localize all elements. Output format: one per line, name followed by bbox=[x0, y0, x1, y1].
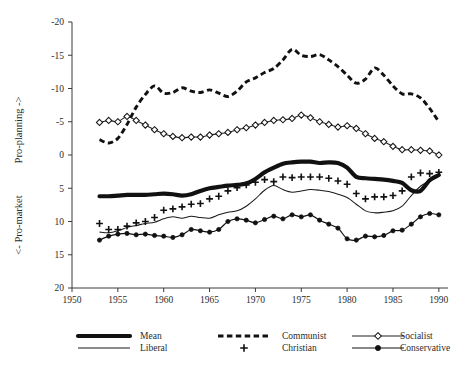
x-axis-ticks: 195019551960196519701975198019851990 bbox=[63, 288, 449, 305]
marker-plus bbox=[96, 220, 103, 227]
marker-dot bbox=[107, 234, 111, 238]
y-tick-label: 20 bbox=[55, 283, 65, 293]
marker-diamond bbox=[335, 124, 341, 130]
marker-diamond bbox=[142, 122, 148, 128]
legend-item-liberal[interactable]: Liberal bbox=[78, 343, 168, 353]
x-tick-label: 1970 bbox=[246, 295, 265, 305]
marker-plus bbox=[325, 175, 332, 182]
series-liberal bbox=[100, 176, 439, 233]
marker-plus bbox=[335, 178, 342, 185]
series-socialist bbox=[96, 112, 442, 158]
marker-dot bbox=[437, 213, 441, 217]
legend-swatch-dot bbox=[375, 345, 380, 350]
y-tick-label: 0 bbox=[59, 150, 64, 160]
marker-plus bbox=[353, 190, 360, 197]
marker-plus bbox=[105, 226, 112, 233]
marker-dot bbox=[281, 217, 285, 221]
marker-diamond bbox=[252, 122, 258, 128]
marker-plus bbox=[225, 188, 232, 195]
marker-diamond bbox=[289, 115, 295, 121]
legend-swatch-plus bbox=[240, 344, 248, 352]
marker-dot bbox=[327, 222, 331, 226]
marker-diamond bbox=[261, 119, 267, 125]
marker-dot bbox=[308, 213, 312, 217]
legend-label-conservative: Conservative bbox=[400, 343, 450, 353]
marker-dot bbox=[198, 229, 202, 233]
series-conservative bbox=[97, 211, 441, 242]
marker-dot bbox=[180, 233, 184, 237]
marker-dot bbox=[272, 214, 276, 218]
marker-diamond bbox=[436, 152, 442, 158]
marker-diamond bbox=[381, 139, 387, 145]
series-line-liberal bbox=[100, 176, 439, 233]
legend-item-communist[interactable]: Communist bbox=[218, 331, 327, 341]
legend-item-christian[interactable]: Christian bbox=[240, 343, 317, 353]
marker-plus bbox=[289, 174, 296, 181]
y-axis-ticks: 20151050-5-10-15-20 bbox=[51, 17, 72, 293]
marker-diamond bbox=[390, 143, 396, 149]
marker-diamond bbox=[234, 127, 240, 133]
marker-plus bbox=[280, 174, 287, 181]
series-line-mean bbox=[100, 162, 439, 197]
marker-plus bbox=[188, 201, 195, 208]
marker-diamond bbox=[96, 119, 102, 125]
plot-axes bbox=[72, 22, 448, 288]
marker-dot bbox=[125, 231, 129, 235]
marker-plus bbox=[261, 176, 268, 183]
marker-plus bbox=[417, 170, 424, 177]
marker-plus bbox=[197, 200, 204, 207]
series-mean bbox=[100, 162, 439, 197]
marker-dot bbox=[318, 218, 322, 222]
marker-diamond bbox=[106, 117, 112, 123]
marker-plus bbox=[160, 207, 167, 214]
chart-figure: Pro-planning -> <- Pro-market 20151050-5… bbox=[0, 0, 465, 366]
marker-plus bbox=[298, 174, 305, 181]
x-tick-label: 1985 bbox=[383, 295, 402, 305]
marker-dot bbox=[189, 227, 193, 231]
marker-dot bbox=[253, 221, 257, 225]
legend-item-conservative[interactable]: Conservative bbox=[352, 343, 450, 353]
marker-dot bbox=[143, 232, 147, 236]
marker-dot bbox=[428, 211, 432, 215]
marker-diamond bbox=[225, 129, 231, 135]
marker-diamond bbox=[427, 148, 433, 154]
legend-item-mean[interactable]: Mean bbox=[78, 331, 162, 341]
marker-dot bbox=[226, 219, 230, 223]
x-tick-label: 1975 bbox=[292, 295, 311, 305]
marker-diamond bbox=[317, 119, 323, 125]
marker-diamond bbox=[151, 127, 157, 133]
marker-diamond bbox=[243, 125, 249, 131]
marker-dot bbox=[354, 238, 358, 242]
legend-label-liberal: Liberal bbox=[140, 343, 168, 353]
marker-plus bbox=[316, 174, 323, 181]
marker-diamond bbox=[408, 147, 414, 153]
x-tick-label: 1950 bbox=[63, 295, 82, 305]
legend-label-mean: Mean bbox=[140, 331, 162, 341]
marker-plus bbox=[380, 193, 387, 200]
marker-plus bbox=[307, 174, 314, 181]
marker-diamond bbox=[417, 147, 423, 153]
marker-diamond bbox=[399, 147, 405, 153]
marker-diamond bbox=[197, 134, 203, 140]
marker-dot bbox=[134, 233, 138, 237]
legend-item-socialist[interactable]: Socialist bbox=[352, 331, 433, 341]
marker-diamond bbox=[206, 132, 212, 138]
marker-diamond bbox=[271, 117, 277, 123]
y-axis-title-upper: Pro-planning -> bbox=[13, 96, 24, 163]
marker-plus bbox=[206, 195, 213, 202]
y-axis-titles: Pro-planning -> <- Pro-market bbox=[13, 96, 24, 254]
marker-dot bbox=[409, 222, 413, 226]
marker-diamond bbox=[326, 121, 332, 127]
marker-plus bbox=[408, 174, 415, 181]
marker-dot bbox=[345, 237, 349, 241]
marker-plus bbox=[362, 195, 369, 202]
marker-dot bbox=[290, 213, 294, 217]
marker-dot bbox=[152, 233, 156, 237]
series-line-communist bbox=[100, 49, 439, 143]
marker-dot bbox=[97, 238, 101, 242]
marker-dot bbox=[382, 233, 386, 237]
marker-dot bbox=[336, 226, 340, 230]
marker-diamond bbox=[170, 133, 176, 139]
marker-dot bbox=[400, 228, 404, 232]
legend-label-christian: Christian bbox=[282, 343, 317, 353]
